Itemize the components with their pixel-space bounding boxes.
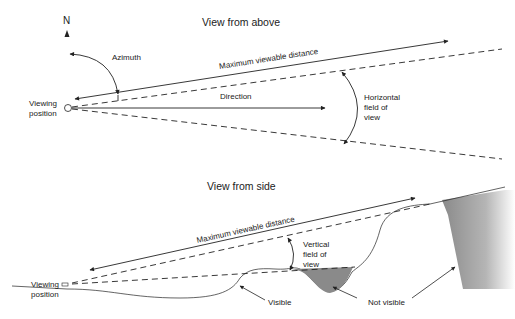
terrain-profile — [12, 187, 505, 298]
azimuth-label: Azimuth — [112, 53, 141, 63]
viewer-marker — [62, 283, 68, 286]
viewshed-diagram — [0, 0, 515, 319]
vfov-label-line2: field of — [303, 250, 327, 260]
cliff-shape — [442, 190, 515, 289]
visible-label: Visible — [268, 298, 291, 308]
visible-pointer — [240, 286, 265, 300]
north-arrow-icon — [65, 30, 70, 37]
hfov-label-line3: view — [364, 113, 380, 123]
max-distance-arrow — [75, 41, 448, 99]
top-view-title: View from above — [202, 16, 280, 28]
not-visible-label: Not visible — [368, 298, 405, 308]
not-visible-area — [292, 267, 353, 293]
direction-label: Direction — [220, 92, 252, 102]
north-label: N — [63, 16, 70, 26]
hfov-label-line2: field of — [364, 103, 388, 113]
top-view — [65, 30, 503, 159]
vfov-label-line1: Vertical — [303, 240, 329, 250]
side-view — [12, 187, 515, 300]
not-visible-pointer-2 — [412, 267, 455, 298]
viewing-position-marker — [65, 105, 72, 112]
vfov-label-line3: view — [303, 260, 319, 270]
hfov-arc — [342, 72, 358, 144]
side-viewing-position-line2: position — [31, 290, 59, 300]
vfov-arc — [288, 238, 294, 270]
hfov-label-line1: Horizontal — [364, 93, 400, 103]
not-visible-pointer-1 — [333, 287, 357, 298]
side-viewing-position-line1: Viewing — [31, 280, 59, 290]
top-viewing-position-line1: Viewing — [29, 99, 57, 109]
azimuth-arc — [70, 54, 118, 94]
top-viewing-position-line2: position — [29, 109, 57, 119]
side-view-title: View from side — [207, 180, 276, 192]
